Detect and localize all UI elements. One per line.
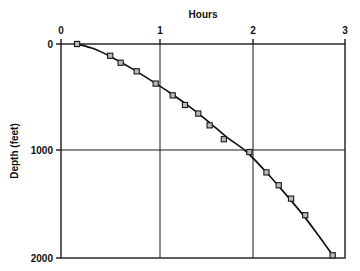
- data-point-marker: [170, 93, 175, 98]
- depth-vs-hours-chart: Hours 0 1 2 3 0 1000 2000 Depth (feet): [0, 0, 360, 271]
- data-point-marker: [153, 81, 158, 86]
- data-point-marker: [196, 111, 201, 116]
- xtick-label-1: 1: [157, 25, 163, 36]
- data-point-marker: [247, 149, 252, 154]
- data-point-marker: [276, 183, 281, 188]
- data-point-marker: [288, 196, 293, 201]
- plot-area-background: [61, 44, 345, 258]
- y-axis-ticks: [56, 44, 61, 258]
- data-point-marker: [118, 60, 123, 65]
- data-point-marker: [330, 253, 335, 258]
- ytick-label-1000: 1000: [31, 145, 54, 156]
- data-point-marker: [264, 170, 269, 175]
- y-axis-title: Depth (feet): [9, 123, 20, 179]
- data-point-marker: [303, 213, 308, 218]
- x-axis-ticks: [61, 39, 345, 44]
- xtick-label-2: 2: [250, 25, 256, 36]
- data-point-marker: [134, 69, 139, 74]
- data-point-marker: [221, 137, 226, 142]
- ytick-label-2000: 2000: [31, 253, 54, 264]
- data-point-marker: [182, 102, 187, 107]
- x-axis-title: Hours: [189, 9, 218, 20]
- data-point-marker: [108, 53, 113, 58]
- xtick-label-3: 3: [342, 25, 348, 36]
- xtick-label-0: 0: [58, 25, 64, 36]
- data-point-marker: [207, 123, 212, 128]
- ytick-label-0: 0: [47, 39, 53, 50]
- data-point-marker: [74, 41, 79, 46]
